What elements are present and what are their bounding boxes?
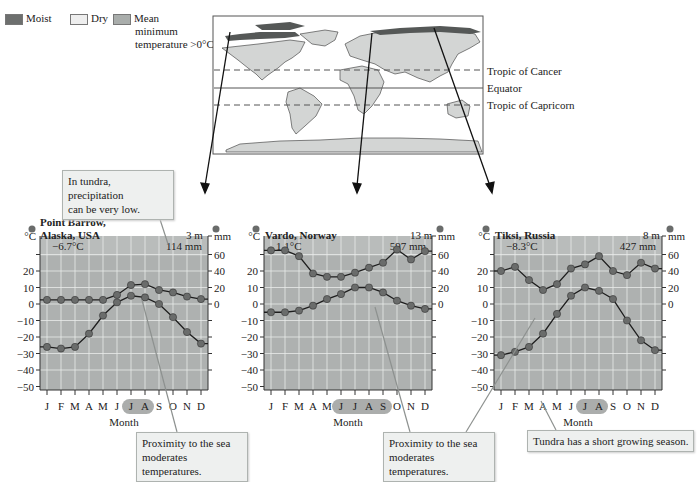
data-point xyxy=(553,310,560,317)
left-tick-label: −30 xyxy=(471,348,489,360)
data-point xyxy=(637,259,644,266)
data-point xyxy=(421,305,428,312)
callout-text-2: moderates temperatures. xyxy=(142,450,242,478)
annual-precip: 114 mm xyxy=(166,240,202,252)
data-point xyxy=(393,246,400,253)
callout-text: Tundra has a short growing season. xyxy=(533,434,688,448)
left-tick-label: −20 xyxy=(471,331,489,343)
left-tick-label: −40 xyxy=(241,364,259,376)
data-point xyxy=(323,295,330,302)
month-label: A xyxy=(85,400,93,412)
month-label: A xyxy=(141,400,149,412)
left-tick-label: 20 xyxy=(477,265,489,277)
month-label: N xyxy=(637,400,645,412)
data-point xyxy=(43,343,50,350)
data-point xyxy=(309,270,316,277)
month-label: D xyxy=(197,400,205,412)
month-label: O xyxy=(393,400,401,412)
growing-season-highlight xyxy=(576,399,608,414)
right-tick-label: 40 xyxy=(214,265,226,277)
callout-text-1: Proximity to the sea xyxy=(142,436,242,450)
data-point xyxy=(539,286,546,293)
data-point xyxy=(57,296,64,303)
station-tiksi: Tiksi, Russia xyxy=(495,229,555,242)
data-point xyxy=(323,273,330,280)
data-point xyxy=(407,256,414,263)
data-point xyxy=(379,289,386,296)
left-tick-label: 0 xyxy=(483,298,489,310)
data-point xyxy=(155,286,162,293)
data-point xyxy=(309,302,316,309)
month-label: S xyxy=(610,400,616,412)
left-tick-label: 0 xyxy=(253,298,259,310)
month-label: M xyxy=(294,400,304,412)
data-point xyxy=(623,272,630,279)
left-tick-label: −10 xyxy=(241,315,259,327)
left-tick-label: −30 xyxy=(241,348,259,360)
left-tick-label: −20 xyxy=(241,331,259,343)
right-tick-label: 20 xyxy=(438,282,450,294)
right-tick-label: 0 xyxy=(438,298,444,310)
left-tick-label: 20 xyxy=(23,265,35,277)
month-label: M xyxy=(322,400,332,412)
data-point xyxy=(497,352,504,359)
month-label: D xyxy=(421,400,429,412)
month-label: F xyxy=(58,400,64,412)
elevation-vardo: 13 m xyxy=(410,229,432,241)
left-tick-label: 0 xyxy=(29,298,35,310)
right-tick-label: 0 xyxy=(214,298,220,310)
station-vardo: Vardo, Norway xyxy=(265,229,337,242)
data-point xyxy=(337,291,344,298)
data-point xyxy=(183,328,190,335)
data-point xyxy=(57,345,64,352)
data-point xyxy=(267,309,274,316)
left-tick-label: 10 xyxy=(247,282,259,294)
data-point xyxy=(351,269,358,276)
left-tick-label: 10 xyxy=(23,282,35,294)
month-label: M xyxy=(70,400,80,412)
right-tick-label: 60 xyxy=(214,249,226,261)
data-point xyxy=(281,309,288,316)
left-tick-label: 10 xyxy=(477,282,489,294)
data-point xyxy=(497,267,504,274)
data-point xyxy=(407,302,414,309)
month-label: J xyxy=(353,400,358,412)
data-point xyxy=(623,317,630,324)
left-tick-label: −10 xyxy=(17,315,35,327)
left-tick-label: −50 xyxy=(241,381,259,393)
month-label: N xyxy=(183,400,191,412)
data-point xyxy=(113,291,120,298)
data-point xyxy=(581,261,588,268)
data-point xyxy=(351,284,358,291)
data-point xyxy=(525,343,532,350)
data-point xyxy=(365,284,372,291)
data-point xyxy=(567,292,574,299)
month-label: D xyxy=(651,400,659,412)
month-label: J xyxy=(269,400,274,412)
callout-precipitation-low: In tundra, precipitation can be very low… xyxy=(62,170,174,220)
data-point xyxy=(141,281,148,288)
data-point xyxy=(637,337,644,344)
data-point xyxy=(651,265,658,272)
month-label: S xyxy=(156,400,162,412)
month-label: O xyxy=(623,400,631,412)
data-point xyxy=(71,343,78,350)
left-tick-label: −20 xyxy=(17,331,35,343)
data-point xyxy=(365,264,372,271)
data-point xyxy=(511,263,518,270)
left-tick-label: −50 xyxy=(471,381,489,393)
elevation-tiksi: 8 m xyxy=(643,229,660,241)
month-label: J xyxy=(115,400,120,412)
month-label: A xyxy=(309,400,317,412)
data-point xyxy=(281,247,288,254)
data-point xyxy=(651,347,658,354)
data-point xyxy=(127,281,134,288)
callout-text-1: Proximity to the sea xyxy=(389,436,489,450)
data-point xyxy=(393,297,400,304)
callout-sea-moderates-2: Proximity to the sea moderates temperatu… xyxy=(383,432,495,482)
data-point xyxy=(127,292,134,299)
chart-1: 20100−10−20−30−40−50°C6040200mm1.1°C597 … xyxy=(241,226,456,429)
left-tick-label: −30 xyxy=(17,348,35,360)
data-point xyxy=(609,267,616,274)
chart-2: 20100−10−20−30−40−50°C6040200mm−8.3°C427… xyxy=(471,226,686,429)
